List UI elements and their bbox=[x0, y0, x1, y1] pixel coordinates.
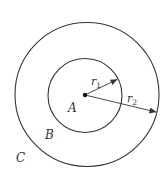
center-point bbox=[83, 93, 87, 97]
label-r1: r1 bbox=[91, 75, 101, 90]
label-r2: r2 bbox=[127, 92, 137, 107]
label-region-c: C bbox=[16, 151, 25, 165]
concentric-circles-diagram: r1 r2 A B C bbox=[0, 0, 168, 172]
label-region-a: A bbox=[67, 101, 77, 115]
label-region-b: B bbox=[44, 128, 54, 142]
radius-r2-arrow bbox=[85, 95, 156, 112]
